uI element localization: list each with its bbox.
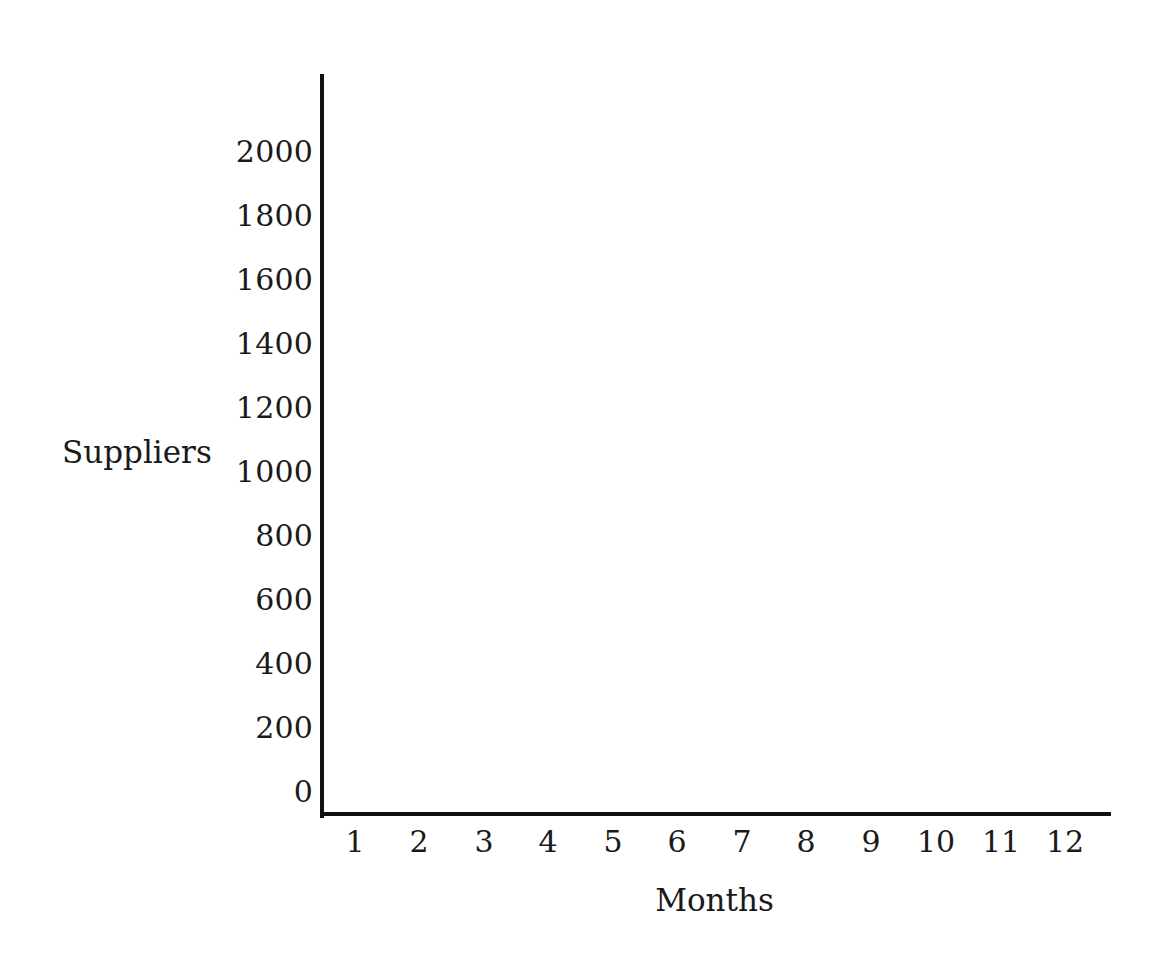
x-tick-label: 2 bbox=[384, 826, 454, 858]
x-tick-label: 7 bbox=[707, 826, 777, 858]
x-axis-line bbox=[320, 812, 1111, 816]
chart-canvas: 2000 1800 1600 1400 1200 1000 800 600 40… bbox=[0, 0, 1163, 972]
x-tick-label: 11 bbox=[966, 826, 1036, 858]
y-tick-label: 0 bbox=[150, 777, 313, 807]
x-tick-label: 9 bbox=[836, 826, 906, 858]
y-axis-title: Suppliers bbox=[62, 436, 212, 469]
x-tick-label: 5 bbox=[578, 826, 648, 858]
x-tick-label: 3 bbox=[449, 826, 519, 858]
plot-area bbox=[324, 74, 1111, 812]
y-axis-tick-labels: 2000 1800 1600 1400 1200 1000 800 600 40… bbox=[150, 0, 313, 972]
y-tick-label: 800 bbox=[150, 521, 313, 551]
x-axis-title-text: Months bbox=[655, 882, 774, 918]
x-tick-label: 1 bbox=[320, 826, 390, 858]
x-tick-label: 12 bbox=[1030, 826, 1100, 858]
x-tick-label: 4 bbox=[513, 826, 583, 858]
y-tick-label: 400 bbox=[150, 649, 313, 679]
y-tick-label: 200 bbox=[150, 713, 313, 743]
x-tick-label: 8 bbox=[771, 826, 841, 858]
x-tick-label: 10 bbox=[901, 826, 971, 858]
x-axis-title: Months bbox=[0, 884, 1163, 917]
x-tick-label: 6 bbox=[642, 826, 712, 858]
y-tick-label: 1800 bbox=[150, 201, 313, 231]
y-tick-label: 1600 bbox=[150, 265, 313, 295]
y-tick-label: 2000 bbox=[150, 137, 313, 167]
y-tick-label: 600 bbox=[150, 585, 313, 615]
y-tick-label: 1400 bbox=[150, 329, 313, 359]
y-tick-label: 1200 bbox=[150, 393, 313, 423]
